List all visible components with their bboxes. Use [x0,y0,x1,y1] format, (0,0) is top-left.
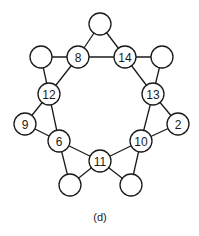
node-circle [30,46,52,68]
node-n9: 9 [14,113,36,135]
node-circle [120,174,142,196]
node-n8: 8 [67,46,89,68]
node-right-top [151,46,173,68]
node-label: 12 [42,88,56,102]
node-label: 13 [146,88,160,102]
node-bottom-right [120,174,142,196]
node-n10: 10 [130,130,152,152]
node-n6: 6 [48,130,70,152]
figure-caption: (d) [93,211,106,223]
node-n2: 2 [167,113,189,135]
node-label: 6 [56,135,63,149]
node-bottom-left [59,174,81,196]
node-label: 9 [22,118,29,132]
node-circle [151,46,173,68]
node-top [89,13,111,35]
node-n14: 14 [114,46,136,68]
node-label: 14 [118,51,132,65]
node-n12: 12 [38,83,60,105]
node-label: 10 [134,135,148,149]
node-circle [59,174,81,196]
node-left-top [30,46,52,68]
node-circle [89,13,111,35]
graph-diagram: 81412139261011 (d) [0,0,199,236]
node-n13: 13 [142,83,164,105]
node-n11: 11 [89,150,111,172]
node-label: 11 [94,155,107,169]
node-label: 2 [175,118,182,132]
node-label: 8 [75,51,82,65]
